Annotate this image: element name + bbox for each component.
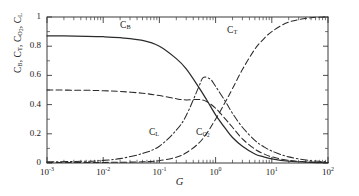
y-tick-label: 0.8 — [11, 40, 41, 50]
curve-label-c-t: CT — [227, 25, 237, 35]
series-layer — [47, 17, 328, 163]
curve-label-c-l: CL — [149, 127, 159, 137]
curve-label-c-o2: CO2 — [196, 127, 209, 138]
x-axis-label: G — [0, 176, 359, 187]
curve-label-c-b: CB — [120, 20, 131, 30]
y-tick-label: 0.2 — [11, 128, 41, 138]
x-tick-label: 10-3 — [27, 166, 67, 177]
y-tick-label: 0.6 — [11, 69, 41, 79]
chart-figure: CB, CT, CO2, CL G 00.20.40.60.81 10-310-… — [0, 0, 359, 196]
series-line-c-b — [47, 36, 328, 163]
x-tick-label: 10-2 — [83, 166, 123, 177]
series-line-c-l — [47, 77, 328, 162]
y-tick-label: 0.4 — [11, 99, 41, 109]
x-tick-label: 100 — [196, 166, 236, 177]
x-tick-label: 10-1 — [139, 166, 179, 177]
y-tick-label: 1 — [11, 11, 41, 21]
series-line-c-t — [47, 17, 328, 163]
x-tick-label: 102 — [308, 166, 348, 177]
x-tick-label: 101 — [252, 166, 292, 177]
